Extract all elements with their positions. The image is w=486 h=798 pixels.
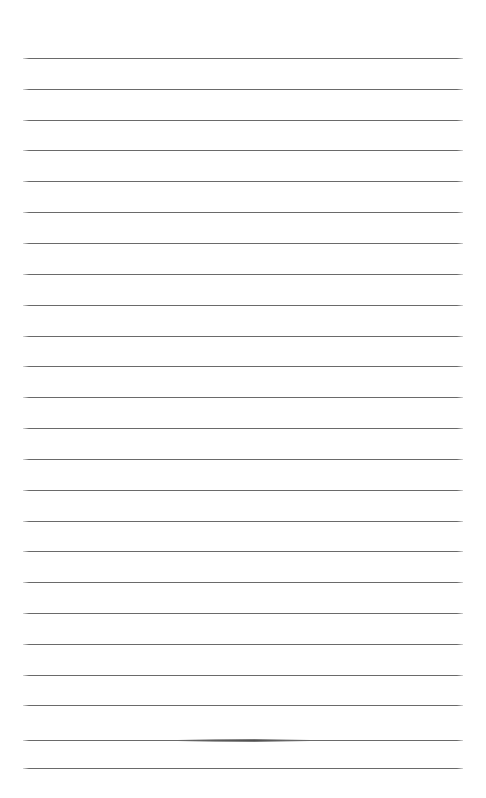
- page-body-text: [23, 58, 463, 59]
- rule-line: [23, 212, 463, 213]
- rule-line: [23, 459, 463, 460]
- rule-line: [23, 89, 463, 90]
- rule-line: [23, 705, 463, 706]
- rule-line: [23, 582, 463, 583]
- rule-line: [23, 274, 463, 275]
- rule-line: [23, 551, 463, 552]
- rule-line: [23, 740, 463, 741]
- rule-line: [23, 120, 463, 121]
- rule-line: [23, 336, 463, 337]
- rule-line: [23, 305, 463, 306]
- rule-line: [23, 181, 463, 182]
- ruled-writing-area[interactable]: [0, 0, 486, 798]
- rule-line: [23, 675, 463, 676]
- rule-line: [23, 644, 463, 645]
- rule-line: [23, 150, 463, 151]
- rule-line: [23, 428, 463, 429]
- rule-line: [23, 366, 463, 367]
- notebook-page: [0, 0, 486, 798]
- rule-line: [23, 521, 463, 522]
- rule-line: [23, 613, 463, 614]
- rule-line: [23, 243, 463, 244]
- rule-line: [23, 768, 463, 769]
- rule-line: [23, 397, 463, 398]
- rule-line: [23, 490, 463, 491]
